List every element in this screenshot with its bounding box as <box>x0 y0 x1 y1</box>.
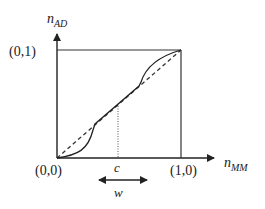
y-axis-label: nAD <box>47 11 68 29</box>
label-width-w: w <box>114 185 123 200</box>
label-bottom-right: (1,0) <box>170 163 197 179</box>
label-center-c: c <box>114 160 120 175</box>
diagram-canvas: nAD nMM (0,1) (0,0) (1,0) c w <box>0 0 265 209</box>
x-axis-label: nMM <box>224 155 248 173</box>
label-top-left: (0,1) <box>9 44 36 60</box>
label-origin: (0,0) <box>35 163 62 179</box>
